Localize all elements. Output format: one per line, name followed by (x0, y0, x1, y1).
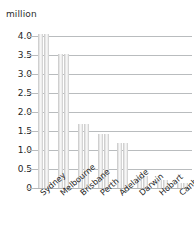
y-axis-tick-mark (27, 169, 34, 170)
gridline (34, 36, 192, 37)
plot-area: 00.51.01.52.02.53.03.54.0 (34, 26, 192, 188)
y-axis-tick-mark (27, 112, 34, 113)
y-axis-tick-mark (27, 188, 34, 189)
bar-chart: million 00.51.01.52.02.53.03.54.0 Sydney… (0, 0, 194, 230)
y-axis-tick-mark (27, 74, 34, 75)
bar-group (54, 54, 74, 188)
x-axis-labels: SydneyMelbourneBrisbanePerthAdelaideDarw… (34, 190, 194, 230)
bar (64, 54, 69, 188)
y-axis-tick-mark (27, 150, 34, 151)
y-axis-tick-mark (27, 55, 34, 56)
bar (44, 34, 49, 188)
bar (38, 34, 43, 188)
y-axis-tick-mark (27, 131, 34, 132)
bar (58, 54, 63, 188)
y-axis-unit-label: million (6, 9, 37, 19)
y-axis-tick-mark (27, 36, 34, 37)
y-axis-tick-mark (27, 93, 34, 94)
bar-group (34, 34, 54, 188)
